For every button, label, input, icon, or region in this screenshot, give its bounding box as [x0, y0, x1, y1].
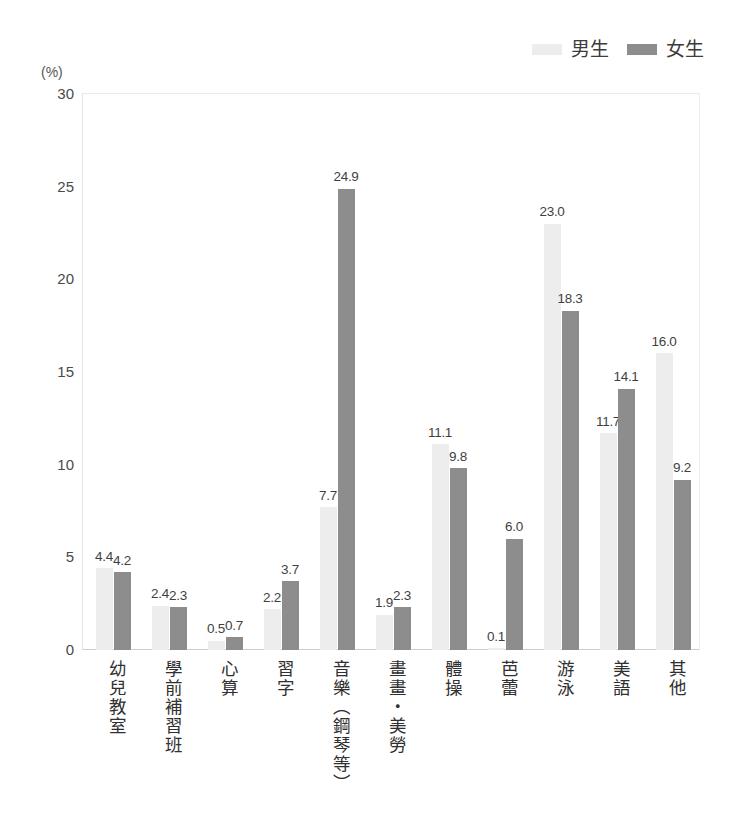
bar-value-label: 4.2: [113, 554, 131, 568]
y-axis-tick-15: 15: [14, 363, 74, 380]
bar-value-label: 9.2: [673, 461, 691, 475]
bar-男生-心算[interactable]: [208, 641, 225, 650]
bar-value-label: 0.5: [207, 622, 225, 636]
legend-item-boys[interactable]: 男生: [532, 40, 609, 59]
x-label-音樂（鋼琴等）: 音樂（鋼琴等）: [324, 660, 350, 793]
bar-男生-游泳[interactable]: [544, 224, 561, 650]
bar-group: 0.16.0: [488, 94, 523, 650]
x-label-游泳: 游泳: [548, 660, 574, 698]
bar-value-label: 11.1: [428, 426, 452, 440]
x-label-心算: 心算: [212, 660, 238, 698]
chart-legend: 男生 女生: [532, 40, 704, 59]
bar-男生-畫畫・美勞[interactable]: [376, 615, 393, 650]
chart-supertitle: [128, 0, 428, 10]
bar-女生-體操[interactable]: [450, 468, 467, 650]
x-label-芭蕾: 芭蕾: [492, 660, 518, 698]
bar-value-label: 11.7: [596, 415, 620, 429]
y-axis-tick-20: 20: [14, 270, 74, 287]
y-axis-tick-5: 5: [14, 548, 74, 565]
bar-group: 11.19.8: [432, 94, 467, 650]
bar-男生-體操[interactable]: [432, 444, 449, 650]
legend-swatch-boys-icon: [532, 44, 562, 55]
x-label-習字: 習字: [268, 660, 294, 698]
bar-group: 7.724.9: [320, 94, 355, 650]
bars-layer: 4.44.22.42.30.50.72.23.77.724.91.92.311.…: [83, 94, 699, 650]
y-axis-tick-25: 25: [14, 177, 74, 194]
bar-value-label: 2.4: [151, 587, 169, 601]
bar-value-label: 4.4: [95, 550, 113, 564]
x-label-畫畫・美勞: 畫畫・美勞: [380, 660, 406, 755]
x-label-幼兒教室: 幼兒教室: [100, 660, 126, 736]
bar-value-label: 0.1: [487, 630, 505, 644]
bar-value-label: 23.0: [539, 205, 564, 219]
y-axis-tick-0: 0: [14, 641, 74, 658]
legend-item-girls[interactable]: 女生: [627, 40, 704, 59]
bar-value-label: 16.0: [651, 335, 676, 349]
bar-group: 2.42.3: [152, 94, 187, 650]
x-label-其他: 其他: [660, 660, 686, 698]
bar-女生-幼兒教室[interactable]: [114, 572, 131, 650]
bar-group: 23.018.3: [544, 94, 579, 650]
bar-value-label: 6.0: [505, 520, 523, 534]
bar-男生-芭蕾[interactable]: [488, 648, 505, 650]
bar-group: 11.714.1: [600, 94, 635, 650]
legend-label-boys: 男生: [571, 40, 609, 59]
bar-value-label: 0.7: [225, 619, 243, 633]
bar-value-label: 24.9: [333, 170, 358, 184]
y-axis-unit-label: (%): [41, 64, 63, 80]
legend-label-girls: 女生: [666, 40, 704, 59]
bar-group: 16.09.2: [656, 94, 691, 650]
bar-女生-學前補習班[interactable]: [170, 607, 187, 650]
bar-value-label: 2.2: [263, 591, 281, 605]
bar-value-label: 3.7: [281, 563, 299, 577]
bar-男生-美語[interactable]: [600, 433, 617, 650]
bar-group: 0.50.7: [208, 94, 243, 650]
x-label-學前補習班: 學前補習班: [156, 660, 182, 755]
bar-男生-音樂（鋼琴等）[interactable]: [320, 507, 337, 650]
bar-group: 1.92.3: [376, 94, 411, 650]
bar-group: 4.44.2: [96, 94, 131, 650]
bar-女生-習字[interactable]: [282, 581, 299, 650]
bar-value-label: 9.8: [449, 450, 467, 464]
y-axis-tick-30: 30: [14, 85, 74, 102]
bar-男生-其他[interactable]: [656, 353, 673, 650]
bar-女生-美語[interactable]: [618, 389, 635, 650]
bar-女生-游泳[interactable]: [562, 311, 579, 650]
bar-value-label: 14.1: [613, 370, 638, 384]
bar-男生-幼兒教室[interactable]: [96, 568, 113, 650]
grouped-bar-chart: 男生 女生 (%) 051015202530 4.44.22.42.30.50.…: [0, 0, 738, 816]
bar-女生-畫畫・美勞[interactable]: [394, 607, 411, 650]
bar-女生-心算[interactable]: [226, 637, 243, 650]
x-label-體操: 體操: [436, 660, 462, 698]
bar-value-label: 2.3: [393, 589, 411, 603]
bar-女生-芭蕾[interactable]: [506, 539, 523, 650]
bar-group: 2.23.7: [264, 94, 299, 650]
bar-value-label: 1.9: [375, 596, 393, 610]
legend-swatch-girls-icon: [627, 44, 657, 55]
bar-男生-習字[interactable]: [264, 609, 281, 650]
bar-女生-音樂（鋼琴等）[interactable]: [338, 189, 355, 650]
x-axis-category-labels: 幼兒教室學前補習班心算習字音樂（鋼琴等）畫畫・美勞體操芭蕾游泳美語其他: [83, 660, 699, 810]
x-label-美語: 美語: [604, 660, 630, 698]
y-axis-ticks: 051015202530: [8, 93, 74, 650]
bar-男生-學前補習班[interactable]: [152, 606, 169, 650]
bar-value-label: 7.7: [319, 489, 337, 503]
bar-value-label: 18.3: [557, 292, 582, 306]
bar-女生-其他[interactable]: [674, 480, 691, 651]
y-axis-tick-10: 10: [14, 455, 74, 472]
bar-value-label: 2.3: [169, 589, 187, 603]
